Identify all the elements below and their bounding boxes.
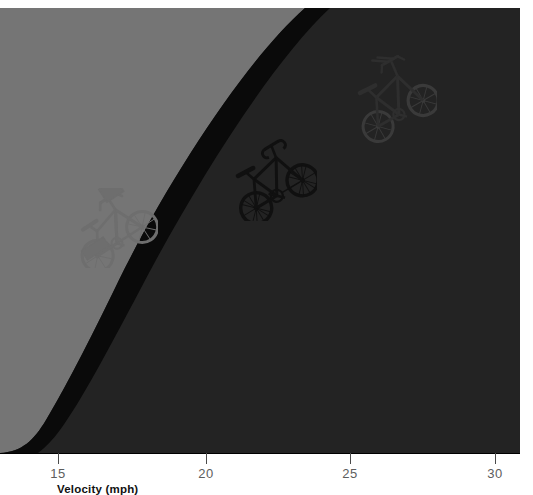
tick-label-25: 25: [330, 466, 370, 481]
city-bike-icon: [68, 188, 158, 268]
marker-road-bike: [227, 139, 317, 221]
road-bike-icon: [227, 139, 317, 221]
tick-label-15: 15: [38, 466, 78, 481]
marker-time-trial-bike: [351, 55, 437, 145]
marker-city-bike: [68, 188, 158, 268]
plot-area: [0, 0, 533, 458]
tick-label-20: 20: [186, 466, 226, 481]
power-velocity-chart: 15 20 25 30 Velocity (mph): [0, 0, 533, 495]
x-axis-title: Velocity (mph): [57, 483, 138, 495]
tick-label-30: 30: [475, 466, 515, 481]
time-trial-bike-icon: [351, 55, 437, 145]
